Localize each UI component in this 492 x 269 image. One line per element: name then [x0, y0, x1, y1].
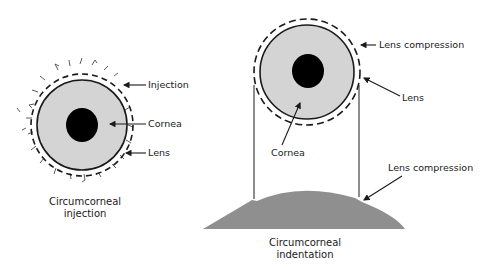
- label-lens-compression-top: Lens compression: [379, 40, 464, 50]
- label-lens-right: Lens: [402, 93, 424, 103]
- label-cornea-right: Cornea: [271, 148, 305, 158]
- label-injection: Injection: [148, 80, 189, 90]
- caption-circumcorneal-indentation: Circumcorneal indentation: [250, 237, 360, 261]
- left-eye-figure: [17, 58, 146, 182]
- indentation-shape: [203, 191, 405, 229]
- label-cornea-left: Cornea: [148, 119, 182, 129]
- right-pupil: [292, 54, 324, 88]
- label-lens-left: Lens: [148, 148, 170, 158]
- left-pupil: [66, 108, 98, 142]
- right-eye-figure: [203, 19, 405, 229]
- label-lens-compression-bottom: Lens compression: [388, 163, 473, 173]
- caption-circumcorneal-injection: Circumcorneal injection: [30, 196, 140, 220]
